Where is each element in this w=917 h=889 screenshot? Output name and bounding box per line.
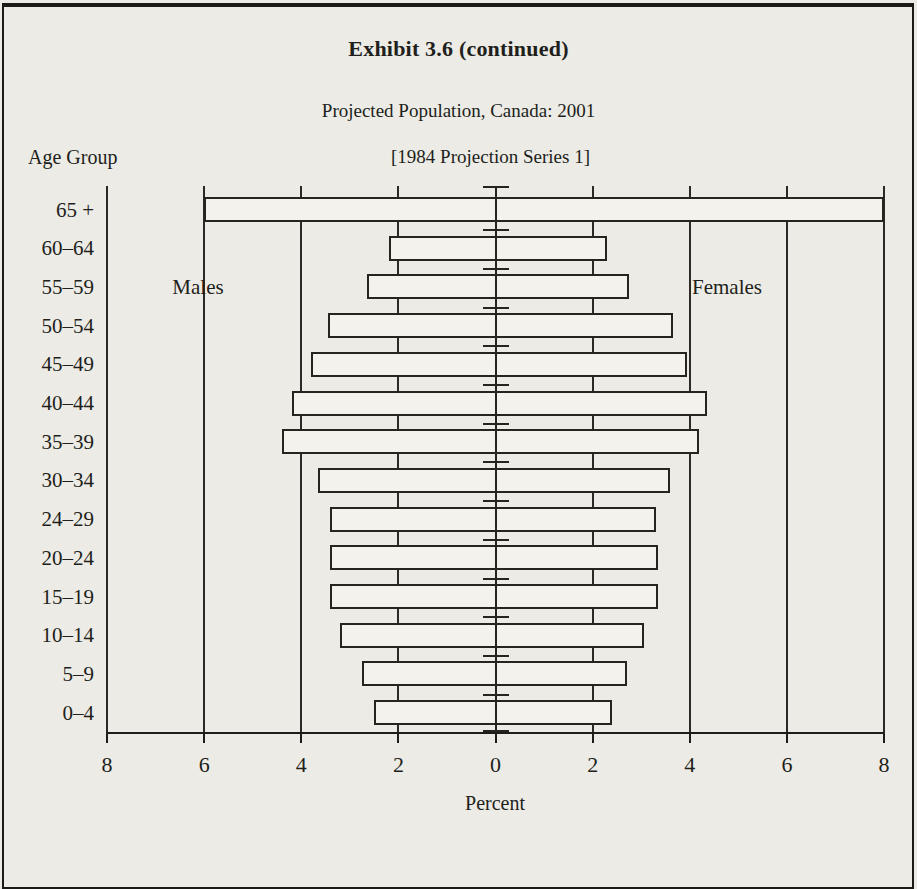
bar-males-45–49 bbox=[311, 352, 496, 377]
bar-females-10–14 bbox=[496, 623, 644, 648]
x-tick-label: 8 bbox=[77, 752, 137, 778]
males-series-label: Males bbox=[172, 275, 223, 300]
age-group-label: 5–9 bbox=[2, 661, 94, 687]
gridline-8-females bbox=[883, 186, 885, 734]
gridline-2-males bbox=[397, 186, 399, 734]
bar-females-50–54 bbox=[496, 313, 673, 338]
gridline-8-males bbox=[106, 186, 108, 734]
center-axis-tick bbox=[483, 186, 509, 188]
center-axis-tick bbox=[483, 423, 509, 425]
center-axis-tick bbox=[483, 578, 509, 580]
bar-males-30–34 bbox=[318, 468, 495, 493]
bar-females-40–44 bbox=[496, 391, 707, 416]
chart-title: Projected Population, Canada: 2001 bbox=[0, 100, 917, 122]
bar-males-24–29 bbox=[330, 507, 495, 532]
bar-females-45–49 bbox=[496, 352, 688, 377]
bar-females-30–34 bbox=[496, 468, 671, 493]
age-group-label: 40–44 bbox=[2, 390, 94, 416]
females-series-label: Females bbox=[692, 275, 762, 300]
age-group-label: 10–14 bbox=[2, 622, 94, 648]
x-tick-label: 6 bbox=[757, 752, 817, 778]
x-tick-label: 4 bbox=[271, 752, 331, 778]
bar-females-60–64 bbox=[496, 236, 608, 261]
bar-females-24–29 bbox=[496, 507, 656, 532]
bar-females-15–19 bbox=[496, 584, 659, 609]
x-axis-tick bbox=[495, 734, 497, 743]
x-tick-label: 0 bbox=[466, 752, 526, 778]
age-group-label: 50–54 bbox=[2, 313, 94, 339]
x-axis-tick bbox=[689, 734, 691, 743]
gridline-2-females bbox=[592, 186, 594, 734]
age-group-label: 55–59 bbox=[2, 274, 94, 300]
age-group-label: 60–64 bbox=[2, 235, 94, 261]
center-axis-tick bbox=[483, 655, 509, 657]
center-axis-tick bbox=[483, 616, 509, 618]
gridline-6-females bbox=[786, 186, 788, 734]
bar-females-35–39 bbox=[496, 429, 700, 454]
age-group-label: 15–19 bbox=[2, 584, 94, 610]
x-axis-tick bbox=[203, 734, 205, 743]
bar-males-35–39 bbox=[282, 429, 496, 454]
x-axis-tick bbox=[592, 734, 594, 743]
x-axis-tick bbox=[300, 734, 302, 743]
center-axis-tick bbox=[483, 500, 509, 502]
bar-males-50–54 bbox=[328, 313, 496, 338]
bar-females-0–4 bbox=[496, 700, 613, 725]
age-group-label: 20–24 bbox=[2, 545, 94, 571]
gridline-4-females bbox=[689, 186, 691, 734]
population-pyramid-chart: 86420246865 +60–6455–5950–5445–4940–4435… bbox=[107, 186, 884, 734]
bar-males-10–14 bbox=[340, 623, 495, 648]
bar-males-0–4 bbox=[374, 700, 495, 725]
x-tick-label: 8 bbox=[854, 752, 914, 778]
bar-males-5–9 bbox=[362, 661, 496, 686]
x-tick-label: 2 bbox=[563, 752, 623, 778]
center-axis-tick bbox=[483, 307, 509, 309]
age-group-label: 24–29 bbox=[2, 506, 94, 532]
x-axis-tick bbox=[883, 734, 885, 743]
center-axis-tick bbox=[483, 229, 509, 231]
bar-males-65+ bbox=[204, 197, 495, 222]
gridline-6-males bbox=[203, 186, 205, 734]
center-axis-tick bbox=[483, 345, 509, 347]
x-tick-label: 2 bbox=[368, 752, 428, 778]
x-tick-label: 4 bbox=[660, 752, 720, 778]
center-axis-tick bbox=[483, 461, 509, 463]
x-tick-label: 6 bbox=[174, 752, 234, 778]
bar-males-40–44 bbox=[292, 391, 496, 416]
chart-subtitle: [1984 Projection Series 1] bbox=[64, 146, 917, 168]
age-group-label: 0–4 bbox=[2, 700, 94, 726]
bar-males-20–24 bbox=[330, 545, 495, 570]
bar-females-65+ bbox=[496, 197, 885, 222]
center-axis-tick bbox=[483, 268, 509, 270]
age-group-label: 30–34 bbox=[2, 467, 94, 493]
bar-females-5–9 bbox=[496, 661, 627, 686]
bar-males-15–19 bbox=[330, 584, 495, 609]
bar-males-60–64 bbox=[389, 236, 496, 261]
bar-females-55–59 bbox=[496, 274, 630, 299]
bar-females-20–24 bbox=[496, 545, 659, 570]
x-axis-tick bbox=[786, 734, 788, 743]
age-group-label: 45–49 bbox=[2, 351, 94, 377]
exhibit-title: Exhibit 3.6 (continued) bbox=[0, 36, 917, 62]
center-axis-tick bbox=[483, 694, 509, 696]
age-group-label: 35–39 bbox=[2, 429, 94, 455]
center-axis-tick bbox=[483, 384, 509, 386]
x-axis-tick bbox=[397, 734, 399, 743]
x-axis-tick bbox=[106, 734, 108, 743]
center-axis-tick bbox=[483, 539, 509, 541]
age-group-label: 65 + bbox=[2, 197, 94, 223]
gridline-4-males bbox=[300, 186, 302, 734]
bar-males-55–59 bbox=[367, 274, 496, 299]
x-axis-title: Percent bbox=[465, 792, 525, 815]
